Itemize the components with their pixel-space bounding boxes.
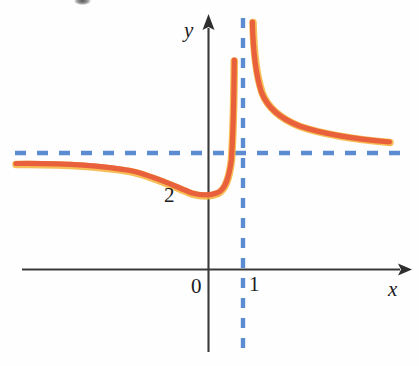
right-branch-curve: [252, 22, 389, 142]
y-axis-label: y: [184, 18, 193, 43]
y-axis-arrowhead: [203, 14, 215, 30]
y-axis: [203, 14, 215, 352]
left-branch-glow: [16, 61, 234, 196]
x-axis-label: x: [388, 277, 397, 302]
plot-canvas: [0, 0, 419, 366]
y-value-two-label: 2: [164, 183, 175, 208]
graph-figure: y x 2 0 1: [0, 0, 419, 366]
x-axis-arrowhead: [398, 264, 412, 276]
right-branch-glow: [253, 23, 390, 143]
origin-label: 0: [191, 274, 202, 299]
x-axis: [22, 264, 412, 276]
x-tick-one-label: 1: [249, 272, 260, 297]
left-branch-curve: [16, 60, 234, 195]
